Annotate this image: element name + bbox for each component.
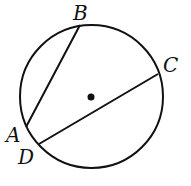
label-a: A [4, 123, 20, 147]
chord-ab [26, 25, 80, 127]
label-b: B [72, 1, 88, 25]
label-d: D [17, 145, 34, 169]
center-dot [88, 94, 95, 101]
chord-dc [39, 74, 158, 144]
circle-diagram: B C A D [0, 0, 191, 186]
label-c: C [163, 53, 178, 77]
